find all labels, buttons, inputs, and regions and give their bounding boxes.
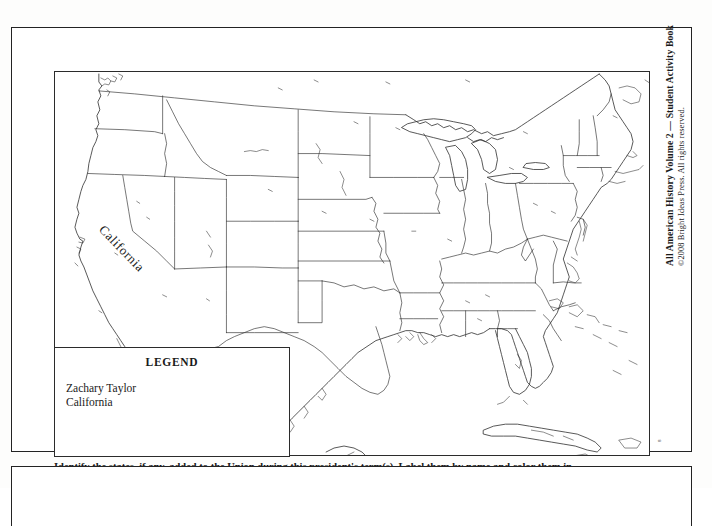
legend-box: LEGEND Zachary Taylor California xyxy=(54,347,290,457)
legend-entry-state: California xyxy=(66,395,289,409)
book-title-vertical: All American History Volume 2 — Student … xyxy=(664,25,675,266)
legend-title: LEGEND xyxy=(55,356,289,368)
copyright-vertical: ©2008 Bright Ideas Press. All rights res… xyxy=(677,107,686,266)
next-activity-frame xyxy=(11,466,692,526)
vertical-credits-block: All American History Volume 2 — Student … xyxy=(650,71,704,456)
page-number: 8 xyxy=(657,440,662,443)
legend-entry-president: Zachary Taylor xyxy=(66,381,289,395)
activity-frame: California LEGEND Zachary Taylor Califor… xyxy=(11,27,692,452)
legend-entry-list: Zachary Taylor California xyxy=(55,381,289,409)
